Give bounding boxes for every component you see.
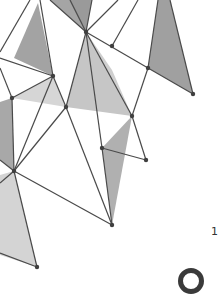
partial-glyph: 1 — [211, 226, 218, 237]
partial-ring-icon — [178, 268, 204, 294]
